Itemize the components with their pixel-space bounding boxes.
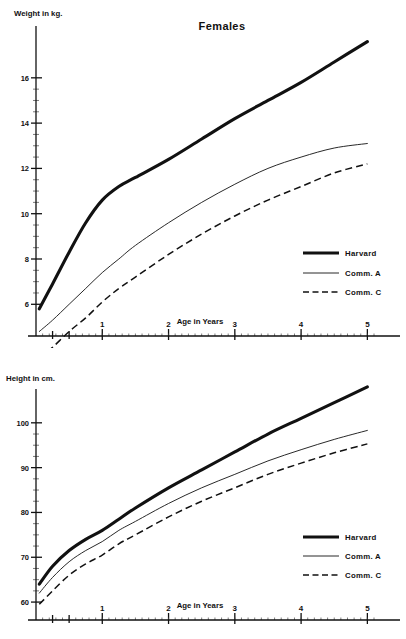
height-y-tick-label: 100 [16, 419, 29, 428]
height-y-tick-label: 60 [21, 598, 29, 607]
weight-x-axis-title: Age in Years [177, 317, 224, 326]
weight-x-axis-tick-labels: 12345 [100, 320, 370, 329]
weight-y-axis-title: Weight in kg. [14, 9, 62, 18]
weight-series-harvard [39, 42, 367, 309]
legend-label-comm-c: Comm. C [345, 288, 381, 297]
height-y-tick-label: 90 [21, 464, 29, 473]
height-legend: Harvard Comm. A Comm. C [303, 533, 381, 580]
weight-y-tick-label: 10 [21, 210, 29, 219]
legend-label-comm-a: Comm. A [345, 269, 381, 278]
weight-series-comm-a [39, 144, 367, 332]
height-series-comm-a [39, 430, 367, 593]
weight-x-tick-label: 5 [365, 320, 370, 329]
height-x-tick-label: 2 [166, 604, 171, 613]
legend-label-comm-a: Comm. A [345, 552, 381, 561]
height-x-tick-label: 5 [365, 604, 370, 613]
weight-y-tick-label: 6 [25, 300, 29, 309]
weight-x-tick-label: 3 [233, 320, 238, 329]
weight-x-tick-label: 2 [166, 320, 171, 329]
height-x-tick-label: 4 [299, 604, 304, 613]
height-x-axis-ticks [43, 613, 374, 624]
height-x-axis-tick-labels: 12345 [100, 604, 370, 613]
height-y-axis-tick-labels: 60708090100 [16, 419, 29, 607]
weight-chart-panel: 6810121416 12345 Weight in kg. Females A… [0, 0, 406, 348]
height-x-axis-title: Age in Years [177, 601, 224, 610]
weight-legend: Harvard Comm. A Comm. C [303, 249, 381, 297]
weight-x-tick-label: 4 [299, 320, 304, 329]
weight-y-tick-label: 14 [21, 119, 30, 128]
weight-y-tick-label: 16 [21, 74, 29, 83]
height-y-tick-label: 70 [21, 553, 29, 562]
weight-y-tick-label: 8 [25, 255, 29, 264]
height-chart-panel: 60708090100 12345 Height in cm. Age in Y… [0, 348, 406, 639]
legend-label-harvard: Harvard [345, 533, 377, 542]
height-chart-svg: 60708090100 12345 Height in cm. Age in Y… [0, 348, 406, 639]
legend-label-comm-c: Comm. C [345, 571, 381, 580]
height-y-axis-title: Height in cm. [6, 374, 55, 383]
chart-title: Females [199, 20, 246, 32]
height-y-tick-label: 80 [21, 508, 29, 517]
height-x-tick-label: 3 [233, 604, 238, 613]
weight-y-tick-label: 12 [21, 164, 29, 173]
legend-label-harvard: Harvard [345, 249, 377, 258]
growth-chart-figure: 6810121416 12345 Weight in kg. Females A… [0, 0, 406, 639]
weight-x-axis-ticks [43, 329, 374, 340]
height-x-tick-label: 1 [100, 604, 105, 613]
weight-chart-svg: 6810121416 12345 Weight in kg. Females A… [0, 0, 406, 348]
weight-x-tick-label: 1 [100, 320, 105, 329]
weight-y-axis-tick-labels: 6810121416 [21, 74, 30, 309]
height-series-harvard [39, 387, 367, 584]
